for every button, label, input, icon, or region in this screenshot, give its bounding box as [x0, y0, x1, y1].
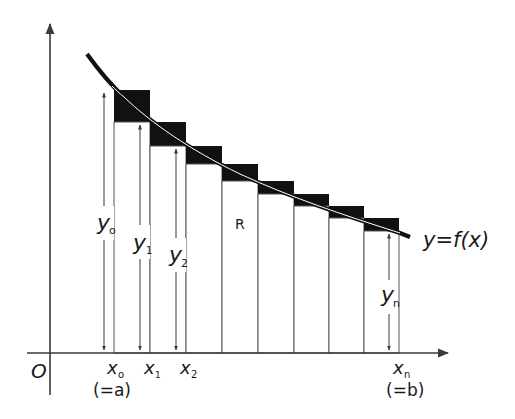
region-label: R [235, 216, 245, 232]
rectangle-4 [258, 194, 294, 353]
x1-label: x [143, 357, 155, 378]
y2-subscript: 2 [181, 257, 188, 270]
origin-label: O [31, 359, 47, 383]
riemann-sum-diagram: y o y 1 y 2 y n R y=f(x) O x o (=a) x 1 … [0, 0, 515, 419]
rectangle-3 [222, 181, 258, 353]
x2-label: x [179, 357, 191, 378]
rectangle-6 [329, 218, 364, 353]
xn-label: x [392, 357, 404, 378]
curve-label: y=f(x) [422, 228, 489, 252]
y0-subscript: o [109, 224, 116, 237]
rectangles-group [114, 90, 399, 353]
yn-subscript: n [393, 297, 400, 310]
y1-label: y [132, 230, 147, 255]
rectangle-5 [294, 206, 329, 353]
rectangle-2 [186, 164, 222, 353]
x2-subscript: 2 [191, 369, 197, 380]
x0-note: (=a) [93, 380, 131, 400]
x0-label: x [106, 357, 118, 378]
y1-subscript: 1 [146, 245, 152, 256]
xn-note: (=b) [386, 380, 424, 400]
x1-subscript: 1 [155, 370, 161, 380]
xn-subscript: n [404, 369, 410, 380]
x0-subscript: o [118, 369, 124, 380]
